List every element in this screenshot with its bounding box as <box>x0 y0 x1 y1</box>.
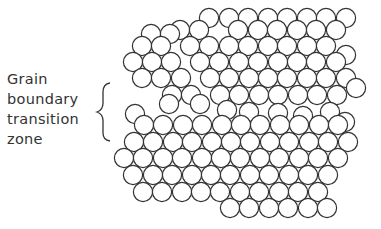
atom-circle <box>259 165 278 184</box>
atom-circle <box>240 165 259 184</box>
atom-circle <box>346 78 365 97</box>
atom-circle <box>328 148 347 167</box>
atom-circle <box>289 115 308 134</box>
atom-circle <box>269 148 288 167</box>
atom-circle <box>172 182 191 201</box>
atom-circle <box>316 68 335 87</box>
atom-circle <box>250 148 269 167</box>
atom-circle <box>239 68 258 87</box>
atom-circle <box>309 115 328 134</box>
atom-circle <box>152 182 171 201</box>
atom-circle <box>327 85 346 104</box>
atom-circle <box>133 148 152 167</box>
atom-circle <box>159 94 178 113</box>
atom-circle <box>132 68 151 87</box>
grain-boundary-diagram: Grain boundary transition zone <box>0 0 381 229</box>
atom-circle <box>220 198 239 217</box>
atom-circle <box>162 165 181 184</box>
grain-boundary-label: Grain boundary transition zone <box>7 69 79 149</box>
atom-circle <box>171 68 190 87</box>
atom-circle <box>270 115 289 134</box>
atom-circle <box>143 165 162 184</box>
atom-circle <box>249 85 268 104</box>
atom-circle <box>289 148 308 167</box>
atom-circle <box>153 115 172 134</box>
atom-circle <box>288 85 307 104</box>
atom-circle <box>201 165 220 184</box>
atom-circle <box>212 115 231 134</box>
atom-circle <box>191 182 210 201</box>
label-line-1: Grain <box>7 69 79 89</box>
atom-circle <box>297 68 316 87</box>
upper-grain <box>123 8 365 104</box>
atom-circle <box>123 165 142 184</box>
curly-brace-icon <box>97 83 110 141</box>
atom-circle <box>268 85 287 104</box>
atom-circle <box>259 198 278 217</box>
atom-circle <box>239 198 258 217</box>
atom-circle <box>277 68 296 87</box>
atom-circle <box>190 94 209 113</box>
label-line-4: zone <box>7 129 79 149</box>
atom-circle <box>220 165 239 184</box>
atom-circle <box>151 68 170 87</box>
atom-circle <box>258 68 277 87</box>
atom-circle <box>134 115 153 134</box>
atom-circle <box>192 115 211 134</box>
atom-circle <box>298 165 317 184</box>
atom-circle <box>298 198 317 217</box>
atom-circle <box>250 115 269 134</box>
atom-circle <box>278 198 297 217</box>
atom-circle <box>172 148 191 167</box>
atom-circle <box>114 148 133 167</box>
atom-circle <box>328 115 347 134</box>
atom-circle <box>200 68 219 87</box>
atom-circle <box>231 115 250 134</box>
atom-circle <box>133 182 152 201</box>
lower-grain <box>114 115 357 217</box>
atom-circle <box>219 68 238 87</box>
atom-circle <box>317 198 336 217</box>
label-line-3: transition <box>7 109 79 129</box>
atom-circle <box>211 148 230 167</box>
label-line-2: boundary <box>7 89 79 109</box>
atom-circle <box>318 165 337 184</box>
atom-circle <box>192 148 211 167</box>
atom-circle <box>308 148 327 167</box>
atom-circle <box>173 115 192 134</box>
atom-circle <box>230 148 249 167</box>
atom-circle <box>182 165 201 184</box>
atom-circle <box>153 148 172 167</box>
atom-circle <box>279 165 298 184</box>
atom-circle <box>307 85 326 104</box>
